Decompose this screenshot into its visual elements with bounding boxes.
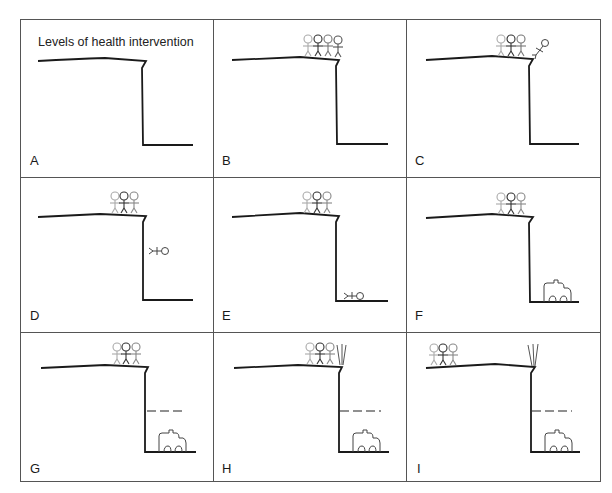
ambulance-icon [159,430,186,452]
panel-g [41,343,196,452]
people-group [302,192,332,213]
panel-label-g: G [30,461,40,476]
cliff-line [426,56,579,144]
panel-a [38,58,193,145]
panel-h [234,343,389,452]
panel-c [426,35,579,144]
panel-grid [21,20,601,482]
ambulance-icon [545,430,572,452]
panel-label-e: E [222,308,231,323]
falling-person [532,40,549,60]
people-group [496,193,526,214]
panel-label-f: F [415,308,423,323]
cliff-line [41,365,196,452]
people-group [496,35,526,56]
people-group [110,192,139,213]
cliff-line [38,214,193,300]
panel-label-a: A [30,153,39,168]
cliff-line [232,213,388,301]
cliff-line [426,214,579,302]
fallen-person [344,292,364,300]
cliff-line [234,365,389,452]
ambulance-icon [544,280,571,302]
cliff-line [38,58,193,145]
people-group [429,344,458,365]
panel-f [426,193,579,302]
panel-d [38,192,193,300]
figure-title: Levels of health intervention [38,35,194,49]
panel-e [232,192,388,301]
ambulance-icon [353,430,380,452]
fence [528,344,538,366]
panel-label-i: I [417,461,421,476]
falling-person [149,247,169,255]
fence [337,344,346,365]
people-group [303,35,343,57]
panel-label-c: C [415,153,424,168]
panel-i [426,344,580,452]
panel-b [232,35,388,144]
panel-label-b: B [222,153,231,168]
people-group [112,343,141,364]
people-group [305,343,335,364]
cliff-line [426,364,580,452]
panel-label-h: H [222,461,231,476]
cliff-line [232,57,388,144]
diagram-figure [0,0,612,493]
panel-label-d: D [30,308,39,323]
